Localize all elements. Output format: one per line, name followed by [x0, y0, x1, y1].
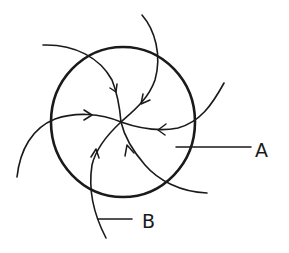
spiral-flow-diagram: A B [0, 0, 289, 253]
flow-curve-top-left [43, 45, 121, 122]
label-a: A [255, 139, 268, 161]
flow-curve-right [121, 83, 224, 130]
flow-curve-bottom-left [91, 122, 121, 238]
flow-curve-left [17, 114, 121, 177]
label-b: B [142, 210, 155, 232]
flow-curve-top [121, 15, 158, 122]
arrowhead-icon [125, 145, 134, 156]
